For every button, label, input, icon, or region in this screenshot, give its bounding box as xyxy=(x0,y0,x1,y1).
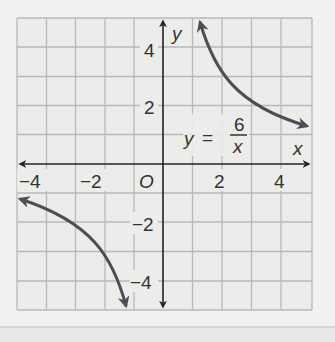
equation-equals: = xyxy=(202,127,213,148)
x-tick-neg4: −4 xyxy=(19,171,41,192)
x-tick-4: 4 xyxy=(274,171,285,192)
y-tick-neg2: −2 xyxy=(132,214,154,235)
y-tick-2: 2 xyxy=(144,97,155,118)
graph: 4 2 −2 −4 −4 −2 2 4 O y x y = 6 x xyxy=(0,0,335,342)
x-tick-neg2: −2 xyxy=(80,171,102,192)
x-tick-2: 2 xyxy=(214,171,225,192)
y-axis-label: y xyxy=(170,23,183,44)
x-axis-label: x xyxy=(292,138,304,159)
equation-denominator: x xyxy=(232,136,244,157)
y-tick-neg4: −4 xyxy=(130,272,152,293)
origin-label: O xyxy=(139,171,154,192)
equation-y: y xyxy=(182,128,195,149)
equation-numerator: 6 xyxy=(234,114,245,135)
y-tick-4: 4 xyxy=(144,40,155,61)
